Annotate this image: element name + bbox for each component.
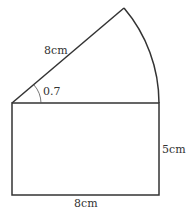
sector-radius-label: 8cm xyxy=(44,44,68,57)
angle-marker xyxy=(34,85,41,103)
sector-arc xyxy=(124,8,159,103)
angle-label: 0.7 xyxy=(43,85,61,98)
sector-radius-line xyxy=(12,8,124,103)
composite-shape-diagram: 8cm 0.7 5cm 8cm xyxy=(0,0,193,214)
rectangle xyxy=(12,103,159,195)
rect-width-label: 8cm xyxy=(74,197,98,210)
rect-height-label: 5cm xyxy=(162,143,186,156)
